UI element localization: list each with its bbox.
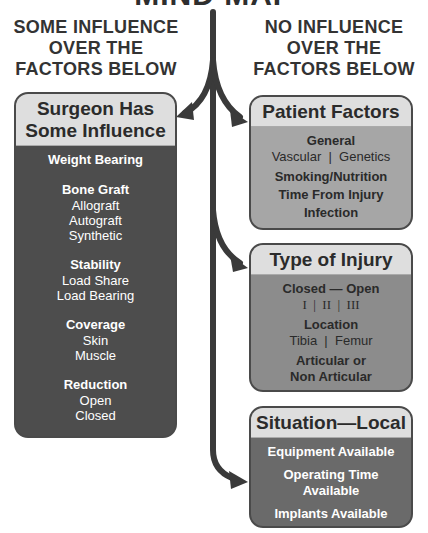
group-title: General bbox=[255, 133, 407, 149]
arrowhead-situation bbox=[229, 471, 248, 489]
situation-local-body: Equipment Available Operating Time Avail… bbox=[251, 438, 411, 528]
group-title: Stability bbox=[20, 257, 171, 273]
group-item: Load Share bbox=[20, 273, 171, 288]
situation-local-box: Situation—Local Equipment Available Oper… bbox=[249, 406, 413, 528]
group-title: Weight Bearing bbox=[20, 152, 171, 168]
factor-group-location: Location Tibia | Femur bbox=[255, 317, 407, 348]
group-item: Tibia | Femur bbox=[255, 333, 407, 348]
group-title: Coverage bbox=[20, 317, 171, 333]
group-item: Closed bbox=[20, 408, 171, 423]
factor-group-equipment: Equipment Available bbox=[255, 444, 407, 460]
group-item: Autograft bbox=[20, 213, 171, 228]
group-title: Non Articular bbox=[255, 369, 407, 385]
type-of-injury-header: Type of Injury bbox=[251, 245, 411, 275]
group-item: Skin bbox=[20, 333, 171, 348]
group-item: Synthetic bbox=[20, 228, 171, 243]
header-line: Some Influence bbox=[20, 120, 171, 142]
factor-group-reduction: Reduction Open Closed bbox=[20, 377, 171, 423]
factor-group-weight-bearing: Weight Bearing bbox=[20, 152, 171, 168]
group-item: Vascular | Genetics bbox=[255, 149, 407, 164]
factor-group-implants: Implants Available bbox=[255, 506, 407, 522]
group-title: Operating Time bbox=[255, 467, 407, 483]
group-item: I | II | III bbox=[255, 297, 407, 312]
group-title: Equipment Available bbox=[255, 444, 407, 460]
group-title: Implants Available bbox=[255, 506, 407, 522]
factor-group-closed-open: Closed — Open I | II | III bbox=[255, 281, 407, 312]
group-title: Reduction bbox=[20, 377, 171, 393]
factor-group-general: General Vascular | Genetics bbox=[255, 133, 407, 164]
factor-group-bone-graft: Bone Graft Allograft Autograft Synthetic bbox=[20, 182, 171, 243]
group-title: Time From Injury bbox=[255, 187, 407, 203]
group-item: Open bbox=[20, 393, 171, 408]
situation-local-header: Situation—Local bbox=[251, 408, 411, 438]
right-branch-line bbox=[213, 60, 240, 117]
surgeon-influence-header: Surgeon Has Some Influence bbox=[16, 94, 175, 146]
type-of-injury-box: Type of Injury Closed — Open I | II | II… bbox=[249, 243, 413, 392]
group-title: Articular or bbox=[255, 353, 407, 369]
group-item: Allograft bbox=[20, 198, 171, 213]
group-title: Smoking/Nutrition bbox=[255, 169, 407, 185]
patient-factors-body: General Vascular | Genetics Smoking/Nutr… bbox=[251, 127, 411, 230]
factor-group-stability: Stability Load Share Load Bearing bbox=[20, 257, 171, 303]
header-line: Surgeon Has bbox=[20, 98, 171, 120]
surgeon-influence-body: Weight Bearing Bone Graft Allograft Auto… bbox=[16, 146, 175, 429]
factor-group-smoking: Smoking/Nutrition bbox=[255, 169, 407, 185]
group-title: Location bbox=[255, 317, 407, 333]
group-item: Muscle bbox=[20, 348, 171, 363]
arrowhead-injury bbox=[230, 255, 248, 272]
type-of-injury-body: Closed — Open I | II | III Location Tibi… bbox=[251, 275, 411, 391]
injury-branch-line bbox=[213, 210, 240, 263]
arrowhead-left bbox=[176, 102, 194, 120]
factor-group-time: Time From Injury bbox=[255, 187, 407, 203]
factor-group-infection: Infection bbox=[255, 205, 407, 221]
patient-factors-header: Patient Factors bbox=[251, 97, 411, 127]
factor-group-operating-time: Operating Time Available bbox=[255, 467, 407, 499]
group-title: Closed — Open bbox=[255, 281, 407, 297]
group-title: Available bbox=[255, 483, 407, 499]
factor-group-coverage: Coverage Skin Muscle bbox=[20, 317, 171, 363]
group-title: Infection bbox=[255, 205, 407, 221]
group-title: Bone Graft bbox=[20, 182, 171, 198]
surgeon-influence-box: Surgeon Has Some Influence Weight Bearin… bbox=[14, 92, 177, 438]
group-item: Load Bearing bbox=[20, 288, 171, 303]
factor-group-articular: Articular or Non Articular bbox=[255, 353, 407, 385]
patient-factors-box: Patient Factors General Vascular | Genet… bbox=[249, 95, 413, 230]
